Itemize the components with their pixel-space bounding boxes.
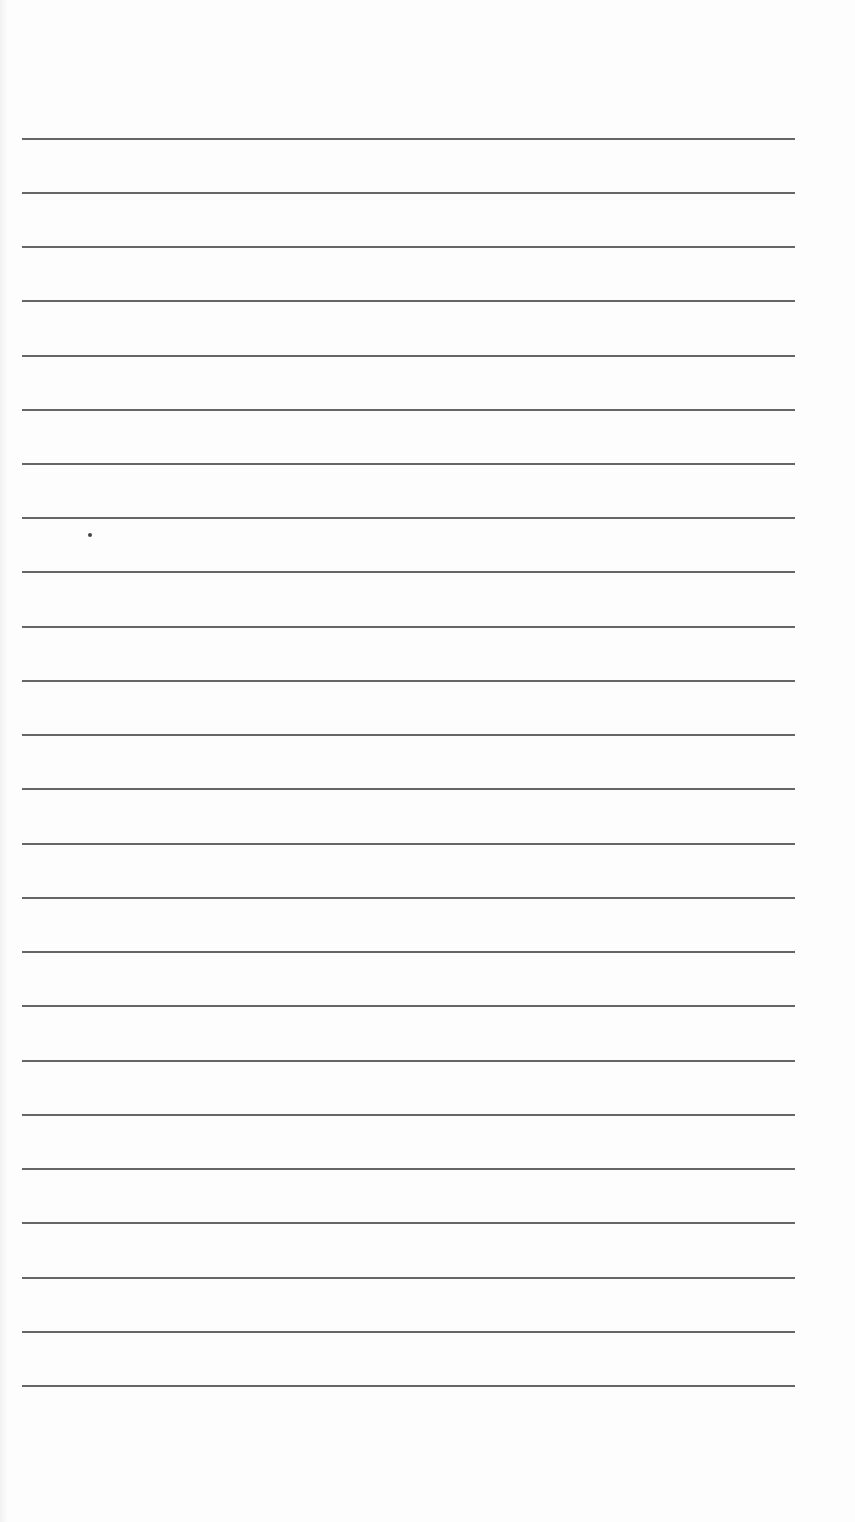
page-edge-shadow	[0, 0, 8, 1522]
ruled-line	[22, 1168, 795, 1170]
lined-page	[0, 0, 855, 1522]
ruled-line	[22, 680, 795, 682]
ruled-line	[22, 1385, 795, 1387]
ruled-line	[22, 1005, 795, 1007]
ruled-line	[22, 788, 795, 790]
ruled-line	[22, 1060, 795, 1062]
ruled-line	[22, 1331, 795, 1333]
ruled-line	[22, 192, 795, 194]
ink-speck	[88, 533, 92, 537]
ruled-line	[22, 734, 795, 736]
ruled-line	[22, 843, 795, 845]
ruled-line	[22, 300, 795, 302]
ruled-line	[22, 246, 795, 248]
ruled-line	[22, 138, 795, 140]
ruled-line	[22, 1277, 795, 1279]
ruled-line	[22, 1222, 795, 1224]
ruled-line	[22, 463, 795, 465]
ruled-line	[22, 951, 795, 953]
ruled-line	[22, 1114, 795, 1116]
ruled-line	[22, 897, 795, 899]
ruled-line	[22, 355, 795, 357]
ruled-line	[22, 571, 795, 573]
ruled-line	[22, 626, 795, 628]
ruled-line	[22, 409, 795, 411]
ruled-line	[22, 517, 795, 519]
